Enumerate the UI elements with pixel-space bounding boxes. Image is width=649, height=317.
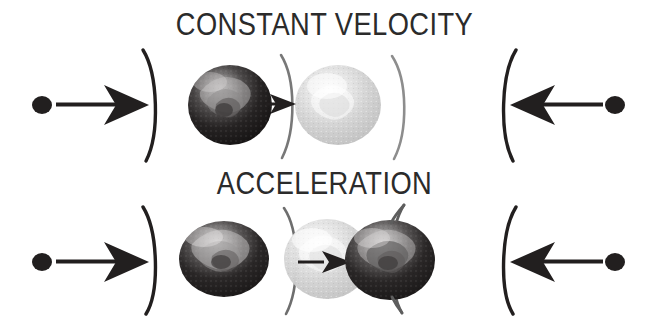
panel-constant-velocity	[32, 50, 625, 161]
cv-left-marker	[32, 50, 155, 161]
cv-right-marker	[504, 50, 625, 161]
acc-right-marker	[504, 207, 625, 314]
acc-dark-sphere-left	[179, 219, 271, 301]
cv-dark-sphere	[186, 63, 276, 149]
cv-inner-bracket-right-icon	[392, 56, 404, 159]
cv-left-dot	[32, 96, 52, 114]
diagram-graphics-layer	[0, 0, 649, 317]
cv-light-sphere	[293, 63, 385, 149]
physics-collision-figure: CONSTANT VELOCITY ACCELERATION	[0, 0, 649, 317]
cv-right-dot	[605, 96, 625, 114]
acc-dark-sphere-right	[345, 219, 437, 303]
acc-left-dot	[32, 253, 52, 271]
acc-left-marker	[32, 207, 155, 314]
acc-right-dot	[605, 253, 625, 271]
panel-acceleration	[32, 205, 625, 314]
